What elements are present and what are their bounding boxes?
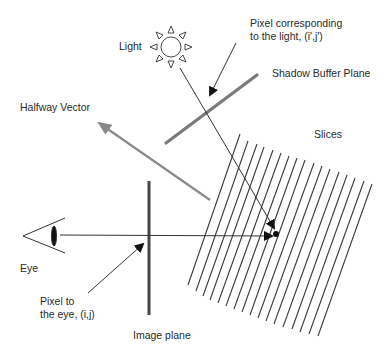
eye-icon: [23, 218, 65, 253]
pixel-eye-pointer: [88, 244, 143, 293]
label-pixel-light-line2: to the light, (i',j'): [250, 30, 342, 43]
label-image-plane: Image plane: [133, 329, 191, 342]
slices: [188, 134, 372, 336]
sample-point: [273, 231, 279, 237]
label-light: Light: [119, 40, 142, 53]
light-ray: [180, 68, 274, 228]
label-shadow-buffer-plane: Shadow Buffer Plane: [272, 67, 370, 80]
label-eye: Eye: [20, 262, 38, 275]
halfway-vector: [99, 123, 210, 200]
eye-ray: [60, 235, 272, 236]
label-halfway-vector: Halfway Vector: [20, 101, 90, 114]
label-pixel-eye-line2: the eye, (i,j): [40, 308, 95, 321]
label-slices: Slices: [314, 128, 342, 141]
pixel-light-pointer: [210, 43, 236, 95]
label-pixel-light-line1: Pixel corresponding: [250, 17, 342, 30]
label-pixel-light: Pixel corresponding to the light, (i',j'…: [250, 17, 342, 43]
shadow-buffer-plane: [166, 75, 257, 143]
label-pixel-eye-line1: Pixel to: [40, 295, 95, 308]
sun-icon: [150, 26, 192, 68]
label-pixel-eye: Pixel to the eye, (i,j): [40, 295, 95, 321]
